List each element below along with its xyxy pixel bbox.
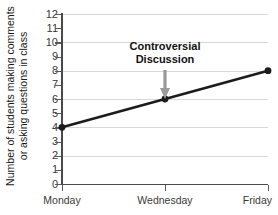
data-point bbox=[59, 124, 66, 131]
data-point bbox=[265, 67, 272, 74]
annotation-arrow-icon bbox=[160, 70, 170, 99]
line-chart: Number of students making comments or as… bbox=[0, 0, 278, 215]
series-layer bbox=[0, 0, 278, 215]
annotation-line2: Discussion bbox=[101, 53, 229, 66]
annotation-label: Controversial Discussion bbox=[101, 40, 229, 66]
annotation-line1: Controversial bbox=[101, 40, 229, 53]
